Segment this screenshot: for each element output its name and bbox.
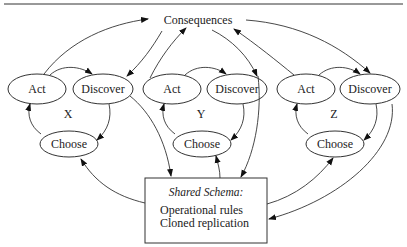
group-y: Act Discover Choose Y [143,74,267,157]
group-z: Act Discover Choose Z [277,74,400,157]
arrow-act-to-discover-x [50,67,92,75]
arrow-act-x-to-consequences [44,19,148,74]
arrow-act-to-discover-y [185,67,226,75]
choose-label-z: Choose [317,137,353,151]
discover-label-y: Discover [215,82,258,96]
arrow-choose-to-act-y [163,104,175,134]
consequences-node: Consequences [164,13,233,27]
group-label-z: Z [330,107,337,121]
act-label-z: Act [297,82,315,96]
arrow-choose-to-act-x [29,104,41,134]
arrow-act-to-discover-z [319,67,360,75]
schema-line-2: Cloned replication [160,216,249,230]
arrow-consequences-to-discover-y [212,30,257,76]
diagram-canvas: Consequences Act Discover Choose X Act D… [0,0,407,247]
arrow-consequences-to-discover-z [246,20,370,73]
arrow-discover-to-choose-z [364,104,377,140]
group-x: Act Discover Choose X [8,74,133,157]
shared-schema-box: Shared Schema: Operational rules Cloned … [145,178,267,243]
act-label-x: Act [28,82,46,96]
act-label-y: Act [163,82,181,96]
arrow-schema-to-choose-x [81,159,145,203]
arrow-act-z-to-consequences [234,29,294,75]
arrow-consequences-to-discover-x [127,31,162,76]
arrow-discover-x-to-schema [130,96,171,176]
schema-title: Shared Schema: [169,186,244,198]
discover-label-z: Discover [348,82,391,96]
schema-line-1: Operational rules [160,203,243,217]
arrow-choose-to-act-z [296,104,308,134]
group-label-y: Y [197,107,206,121]
arrow-schema-to-choose-y [216,156,220,178]
arrow-act-y-to-consequences [150,28,186,78]
choose-label-x: Choose [51,137,87,151]
discover-label-x: Discover [81,82,124,96]
arrow-discover-to-choose-y [231,104,244,140]
group-label-x: X [64,107,73,121]
choose-label-y: Choose [184,137,220,151]
arrow-discover-to-choose-x [97,104,110,140]
